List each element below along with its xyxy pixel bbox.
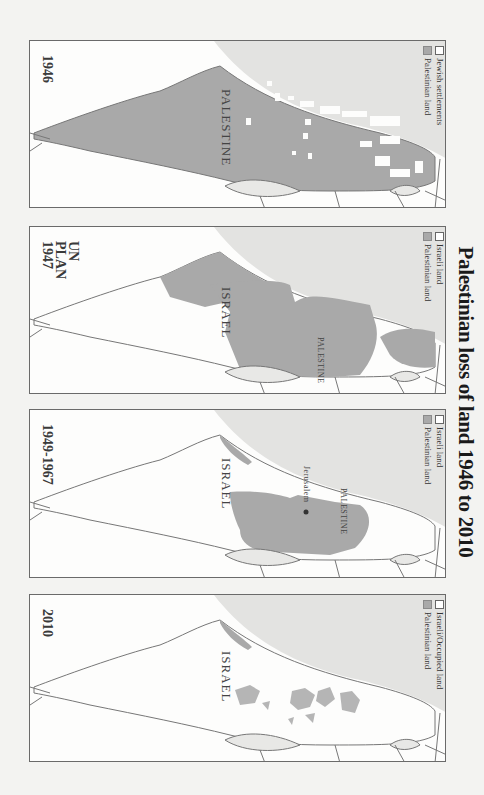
swatch-gray-icon — [424, 46, 433, 55]
city-label-jerusalem: Jerusalem — [302, 466, 311, 503]
jerusalem-marker — [304, 510, 309, 515]
legend: Israeli land Palestinian land — [422, 415, 446, 484]
swatch-gray-icon — [424, 415, 433, 424]
legend: Israeli land Palestinian land — [422, 232, 446, 301]
swatch-white-icon — [436, 232, 445, 241]
year-label: 1946 — [41, 55, 54, 83]
swatch-white-icon — [436, 415, 445, 424]
map-1947-graphic — [30, 227, 446, 394]
legend-item: Jewish settlements — [434, 46, 446, 125]
legend-item: Palestinian land — [422, 232, 434, 301]
legend-item: Palestinian land — [422, 415, 434, 484]
country-label-israel: ISRAEL — [218, 287, 234, 339]
legend-item: Israeli land — [434, 415, 446, 484]
legend: Jewish settlements Palestinian land — [422, 46, 446, 125]
swatch-white-icon — [436, 46, 445, 55]
legend-item: Israeli/Occupied land — [434, 600, 446, 689]
country-label-israel: ISRAEL — [218, 651, 234, 703]
year-label: UN PLAN 1947 — [41, 241, 80, 279]
map-panel-1949-1967: 1949-1967 ISRAEL PALESTINE Jerusalem Isr… — [29, 409, 446, 578]
country-label-palestine: PALESTINE — [316, 337, 325, 383]
country-label-palestine: PALESTINE — [218, 89, 234, 166]
map-1946-graphic — [30, 41, 446, 208]
map-panel-2010: 2010 ISRAEL Israeli/Occupied land Palest… — [29, 594, 446, 762]
map-panel-1946: 1946 PALESTINE Jewish settlements Palest… — [29, 40, 446, 208]
year-label: 1949-1967 — [41, 424, 54, 485]
map-title: Palestinian loss of land 1946 to 2010 — [453, 247, 478, 558]
legend: Israeli/Occupied land Palestinian land — [422, 600, 446, 689]
legend-item: Israeli land — [434, 232, 446, 301]
year-label: 2010 — [41, 609, 54, 637]
swatch-gray-icon — [424, 600, 433, 609]
country-label-israel: ISRAEL — [218, 458, 234, 510]
map-1949-1967-graphic — [30, 410, 446, 578]
map-2010-graphic — [30, 595, 446, 762]
swatch-white-icon — [436, 600, 445, 609]
country-label-palestine: PALESTINE — [339, 488, 348, 534]
map-panel-1947: UN PLAN 1947 ISRAEL PALESTINE Israeli la… — [29, 226, 446, 394]
swatch-gray-icon — [424, 232, 433, 241]
legend-item: Palestinian land — [422, 46, 434, 125]
legend-item: Palestinian land — [422, 600, 434, 689]
